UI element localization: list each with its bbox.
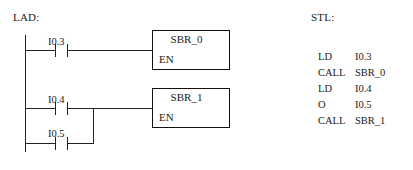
stl-instruction-list: LD I0.3 CALL SBR_0 LD I0.4 O I0.5 CALL S…	[318, 48, 413, 128]
stl-operand: SBR_1	[355, 115, 385, 126]
stl-mnemonic: LD	[318, 51, 355, 62]
stl-instruction-row: O I0.5	[318, 96, 413, 112]
ladder-diagram	[0, 0, 290, 170]
function-block-sbr1-en-label: EN	[159, 111, 174, 123]
contact-label-i05: I0.5	[48, 128, 65, 139]
stl-operand: I0.3	[355, 51, 372, 62]
stl-mnemonic: CALL	[318, 115, 355, 126]
stl-operand: I0.4	[355, 83, 372, 94]
stl-section-label: STL:	[311, 11, 334, 23]
stl-mnemonic: CALL	[318, 67, 355, 78]
function-block-sbr0-title: SBR_0	[153, 33, 220, 45]
stl-mnemonic: LD	[318, 83, 355, 94]
stl-instruction-row: CALL SBR_1	[318, 112, 413, 128]
function-block-sbr0: SBR_0 EN	[152, 30, 230, 70]
stl-operand: I0.5	[355, 99, 372, 110]
stl-instruction-row: LD I0.3	[318, 48, 413, 64]
contact-label-i03: I0.3	[48, 36, 65, 47]
stl-instruction-row: CALL SBR_0	[318, 64, 413, 80]
ladder-diagram-canvas	[0, 0, 290, 170]
stl-mnemonic: O	[318, 99, 355, 110]
contact-label-i04: I0.4	[48, 94, 65, 105]
stl-operand: SBR_0	[355, 67, 385, 78]
function-block-sbr1-title: SBR_1	[153, 91, 220, 103]
function-block-sbr0-en-label: EN	[159, 53, 174, 65]
stl-instruction-row: LD I0.4	[318, 80, 413, 96]
function-block-sbr1: SBR_1 EN	[152, 88, 230, 128]
